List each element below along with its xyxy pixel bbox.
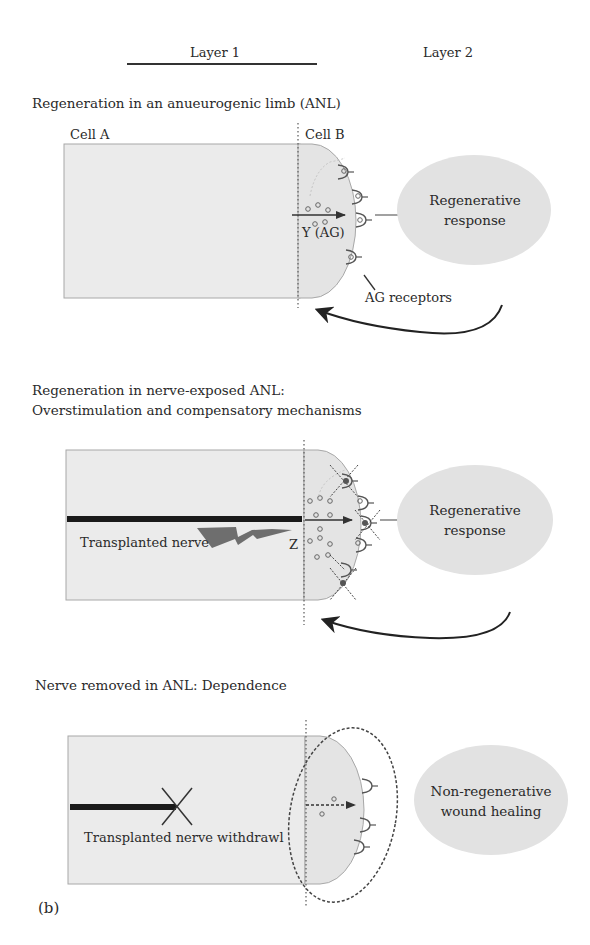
outcome-line2: response <box>410 520 540 540</box>
panel3-outcome-text: Non-regenerative wound healing <box>418 781 564 821</box>
outcome-line2: wound healing <box>418 801 564 821</box>
transplanted-nerve-label: Transplanted nerve <box>80 535 209 550</box>
panel2-cell-b-cap <box>304 450 361 600</box>
outcome-line1: Regenerative <box>410 500 540 520</box>
signal-y-ag-label: Y (AG) <box>302 225 345 240</box>
nerve-withdrawal-label: Transplanted nerve withdrawl <box>84 830 284 845</box>
panel3-cell-b-cap <box>305 736 364 884</box>
ag-receptors-label: AG receptors <box>365 290 452 305</box>
panel1-cell-a <box>64 144 300 298</box>
receptor-pointer-line <box>364 275 375 290</box>
panel1-outcome-text: Regenerative response <box>410 190 540 230</box>
panel2-feedback-arrow <box>324 612 510 638</box>
outcome-line2: response <box>410 210 540 230</box>
signal-z-label: Z <box>289 537 298 552</box>
panel1-feedback-arrow <box>318 305 502 333</box>
outcome-line1: Regenerative <box>410 190 540 210</box>
panel2-cell-a <box>66 450 304 600</box>
panel2-outcome-text: Regenerative response <box>410 500 540 540</box>
outcome-line1: Non-regenerative <box>418 781 564 801</box>
figure-panel-label: (b) <box>38 899 59 917</box>
